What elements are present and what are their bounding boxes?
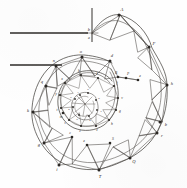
vertex-node (55, 65, 58, 68)
vertex-label: e (139, 74, 141, 78)
vertex-label: A (120, 7, 124, 12)
vertex-node (86, 144, 89, 147)
vertex-node (58, 164, 61, 167)
vertex-label: v (121, 96, 123, 100)
vertex-label: g (119, 109, 121, 113)
vertex-label: g (38, 142, 41, 147)
vertex-node (137, 79, 140, 82)
vertex-label: k (27, 108, 30, 113)
inner-coil-spokes (72, 95, 95, 116)
bay-triangle (118, 77, 138, 80)
vertex-label: m (60, 115, 63, 119)
vertex-label: o (68, 108, 70, 111)
bay-triangle (106, 98, 118, 110)
vertex-node (117, 97, 119, 99)
vertex-node (148, 46, 151, 49)
vertex-label: y (54, 92, 57, 96)
vertex-node (59, 94, 61, 96)
vertex-node (109, 60, 112, 63)
vertex-label: b (165, 122, 168, 127)
bay-triangle (107, 86, 118, 98)
bay-triangle (96, 114, 109, 126)
vertex-node (113, 85, 115, 87)
vertex-label: n (87, 88, 89, 91)
vertex-node (45, 85, 48, 88)
vertex-label: q (41, 79, 44, 84)
origin-label-lower: a (88, 36, 90, 40)
vertex-node (166, 84, 169, 87)
figure-root: b a A F h b r Q T S e i c g k m q n o d … (0, 0, 187, 188)
vertex-label: d (111, 53, 114, 58)
spiral-diagram-canvas: b a A F h b r Q T S e i c g k m q n o d … (0, 0, 187, 188)
vertex-node (88, 115, 90, 117)
vertex-label: c (69, 131, 71, 135)
outer-spiral-inner-edge (39, 21, 161, 163)
vertex-label: i (56, 167, 58, 172)
vertex-node (95, 99, 97, 101)
vertex-node (87, 92, 89, 94)
vertex-label: P (126, 72, 130, 76)
vertex-label: c (79, 129, 81, 133)
vertex-node (72, 106, 74, 108)
vertex-label: r (77, 91, 79, 94)
vertex-node (81, 56, 84, 59)
inner-coil-path-2 (75, 96, 94, 116)
bay-triangle (87, 144, 110, 170)
vertex-node (43, 142, 46, 145)
vertex-node (108, 119, 110, 121)
outer-spiral-path (32, 15, 167, 170)
vertex-label: h (171, 81, 174, 86)
outer-spiral-arc (32, 15, 167, 170)
origin-label-upper: b (88, 27, 91, 32)
bay-triangle (134, 31, 149, 52)
bay-triangle (72, 145, 99, 170)
vertex-label: T (99, 174, 102, 179)
vertex-label: b (78, 69, 80, 73)
vertex-node (78, 114, 80, 116)
middle-spiral-path (58, 69, 118, 130)
vertex-label: l (97, 72, 98, 76)
vertex-label: x (60, 77, 63, 81)
vertex-node (32, 111, 35, 114)
vertex-node (117, 76, 120, 79)
bay-triangle (81, 75, 98, 88)
vertex-node (71, 136, 74, 139)
bay-triangle (130, 133, 157, 158)
vertex-label: s (100, 110, 101, 113)
vertex-node (64, 82, 66, 84)
vertex-node (74, 98, 76, 100)
vertex-label: Q (132, 159, 136, 164)
vertex-node (79, 94, 81, 96)
bay-triangle (138, 47, 152, 70)
vertex-label: r (161, 133, 163, 138)
bay-triangle (110, 15, 134, 40)
vertex-label: F (152, 41, 156, 46)
vertex-node (95, 125, 97, 127)
vertex-node (68, 119, 70, 121)
bay-triangle (150, 80, 167, 100)
bay-triangle (113, 140, 130, 158)
vertex-node (159, 121, 162, 124)
inner-coil (72, 92, 99, 120)
vertex-node (118, 14, 121, 17)
vertex-label: S (112, 137, 114, 141)
vertex-node (109, 142, 112, 145)
vertex-node (125, 77, 128, 80)
axis-origin-labels: b a (88, 27, 91, 40)
vertex-label: a (98, 97, 100, 100)
bay-triangle (33, 112, 52, 143)
vertex-node (115, 109, 117, 111)
middle-spiral-arc (58, 69, 118, 130)
vertex-label: u (70, 96, 72, 99)
vertex-node (97, 77, 99, 79)
vertex-node (129, 157, 132, 160)
bay-triangle (60, 83, 73, 95)
reference-rules (10, 33, 88, 65)
vertex-node (98, 169, 101, 172)
vertex-node (156, 132, 159, 135)
vertex-label: e (83, 139, 85, 143)
vertex-label: o (80, 49, 83, 54)
vertex-node (80, 74, 82, 76)
vertex-node (80, 125, 82, 127)
vertex-label: B (115, 71, 118, 75)
